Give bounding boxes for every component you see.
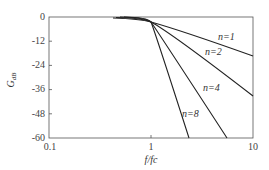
y-tick-0: 0 <box>40 11 45 22</box>
x-tick-1: 1 <box>149 141 154 152</box>
label-n2: n=2 <box>205 46 222 57</box>
label-n1: n=1 <box>218 31 235 42</box>
label-n4: n=4 <box>203 82 220 93</box>
x-axis-label: f/fc <box>145 154 158 165</box>
y-tick-12: -12 <box>32 35 45 46</box>
chart: 0 -12 -24 -36 -48 -60 0.1 1 10 GdB f/fc … <box>0 0 269 170</box>
y-axis <box>49 41 151 138</box>
line-n8 <box>124 17 189 138</box>
y-tick-36: -36 <box>32 83 45 94</box>
label-n8: n=8 <box>182 108 199 119</box>
line-n2 <box>116 18 253 97</box>
x-tick-0.1: 0.1 <box>44 141 57 152</box>
line-n4 <box>120 17 227 138</box>
y-tick-48: -48 <box>32 108 45 119</box>
y-axis-label: GdB <box>5 72 18 88</box>
y-tick-24: -24 <box>32 59 45 70</box>
x-tick-10: 10 <box>248 141 258 152</box>
